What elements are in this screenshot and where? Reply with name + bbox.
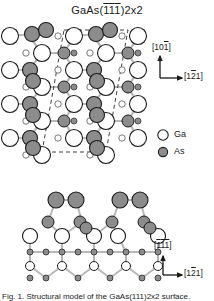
top-axis-v-suffix: ] xyxy=(169,42,171,52)
bottom-axis-h-suffix: 1] xyxy=(196,268,203,278)
title-prefix: GaAs( xyxy=(71,4,103,16)
plan-view-panel xyxy=(2,23,147,164)
bottom-axis-v-suffix: ] xyxy=(169,240,171,250)
figure-caption: Fig. 1. Structural model of the GaAs(111… xyxy=(2,292,212,301)
legend-marker-as xyxy=(158,147,167,156)
top-axis-vertical-label: [101] xyxy=(152,42,171,52)
unit-cell-outline xyxy=(42,30,128,152)
bottom-axis-vertical-label: [111] xyxy=(154,240,172,250)
title-suffix: )2x2 xyxy=(121,4,143,16)
top-axis-h-suffix: 1] xyxy=(196,71,203,81)
top-axes xyxy=(160,56,182,78)
ga-bulk-atoms xyxy=(26,262,163,271)
figure-title: GaAs(111)2x2 xyxy=(0,4,214,16)
legend-label-ga: Ga xyxy=(174,129,186,139)
bottom-axis-horizontal-label: [121] xyxy=(184,268,203,278)
legend-markers xyxy=(158,130,168,157)
legend-label-as: As xyxy=(174,146,185,156)
legend-marker-ga xyxy=(158,130,168,140)
top-axis-horizontal-label: [121] xyxy=(184,71,203,81)
as-dimer-atoms xyxy=(48,192,148,208)
bottom-axes xyxy=(163,256,182,275)
top-axis-v-prefix: [10 xyxy=(152,42,164,52)
side-view-panel xyxy=(23,192,166,281)
ga-surface-atoms-side xyxy=(23,229,166,244)
